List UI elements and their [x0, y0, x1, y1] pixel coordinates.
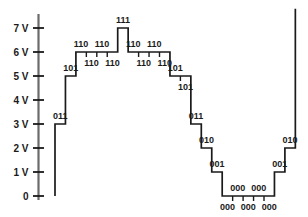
waveform-trace-group	[55, 9, 295, 201]
y-axis-tick-label: 6 V	[13, 47, 28, 58]
binary-code-label: 111	[116, 15, 130, 25]
y-axis-tick-label: 2 V	[13, 143, 28, 154]
binary-code-label: 010	[199, 135, 214, 145]
binary-code-label: 110	[74, 39, 89, 49]
binary-code-label: 001	[272, 159, 287, 169]
binary-code-label: 011	[189, 111, 204, 121]
bit-period-ticks	[86, 52, 264, 201]
binary-code-label: 101	[168, 63, 183, 73]
binary-code-label: 000	[251, 183, 266, 193]
binary-code-label: 000	[220, 202, 235, 212]
binary-code-label: 110	[147, 39, 162, 49]
y-axis-tick-label: 0	[23, 191, 29, 202]
binary-code-label: 010	[283, 135, 298, 145]
binary-code-label: 101	[63, 63, 78, 73]
y-axis-tick-label: 3 V	[13, 119, 28, 130]
y-axis-tick-label: 7 V	[13, 23, 28, 34]
y-axis-tick-label: 1 V	[13, 167, 28, 178]
binary-code-label: 011	[53, 111, 68, 121]
y-axis	[33, 14, 44, 200]
binary-code-label: 000	[230, 183, 245, 193]
binary-code-label: 110	[126, 39, 141, 49]
y-axis-tick-label: 5 V	[13, 71, 28, 82]
binary-code-label: 110	[105, 58, 120, 68]
binary-code-label: 001	[209, 159, 224, 169]
binary-code-label: 110	[84, 58, 99, 68]
binary-code-label: 101	[178, 82, 193, 92]
waveform-trace	[55, 9, 295, 196]
binary-code-label: 000	[241, 202, 256, 212]
binary-code-label: 110	[137, 58, 152, 68]
y-axis-tick-label: 4 V	[13, 95, 28, 106]
waveform-figure: 7 V6 V5 V4 V3 V2 V1 V0 01110111011011011…	[0, 0, 308, 217]
binary-code-label: 110	[95, 39, 110, 49]
binary-code-label: 000	[262, 202, 277, 212]
